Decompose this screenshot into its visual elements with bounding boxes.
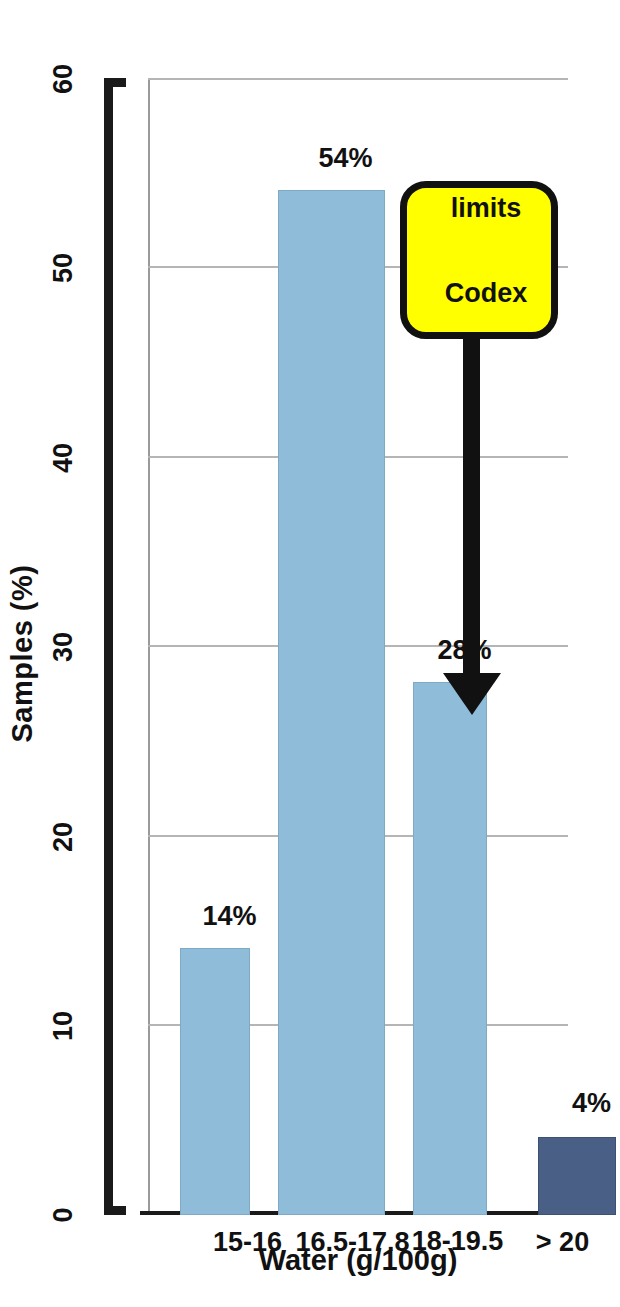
bar-value-16.5-17.8: 54%: [318, 143, 372, 174]
callout-arrow-shaft: [463, 333, 480, 681]
tick-label-0: 0: [48, 1207, 79, 1222]
tick-label-30: 30: [48, 632, 79, 662]
tick-label-20: 20: [48, 822, 79, 852]
bar-value-over-20: 4%: [572, 1088, 611, 1119]
bar-over-20[interactable]: [538, 1137, 616, 1215]
tick-label-40: 40: [48, 443, 79, 473]
bar-18-19.5[interactable]: [413, 682, 487, 1215]
tick-label-10: 10: [48, 1011, 79, 1041]
tick-label-60: 60: [48, 64, 79, 94]
bar-value-15-16: 14%: [202, 901, 256, 932]
callout-arrow-head: [443, 673, 501, 715]
bar-16.5-17.8[interactable]: [278, 190, 385, 1215]
gridline-60: [148, 78, 568, 80]
codex-limits-callout: Codex limits: [400, 181, 558, 339]
value-axis-title: Samples (%): [6, 0, 39, 1307]
bar-15-16[interactable]: [180, 948, 250, 1215]
value-axis-tick-labels: 0 10 20 30 40 50 60: [48, 0, 82, 1307]
tick-label-50: 50: [48, 253, 79, 283]
codex-limits-callout-text: Codex limits: [407, 174, 565, 332]
value-axis-rule: [104, 78, 113, 1215]
category-label-3: > 20: [493, 1227, 620, 1258]
codex-limits-line-2: limits: [451, 193, 522, 223]
codex-limits-line-1: Codex: [445, 277, 528, 307]
value-axis-rule-cap-left: [104, 1206, 126, 1215]
value-axis-rule-cap-right: [104, 78, 126, 87]
